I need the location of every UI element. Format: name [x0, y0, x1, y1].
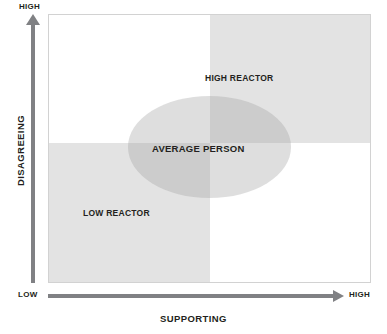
y-axis-line	[31, 24, 35, 283]
average-person-label: AVERAGE PERSON	[152, 143, 245, 154]
x-axis-low-label: LOW	[18, 290, 38, 299]
x-axis-line	[48, 294, 337, 298]
y-axis-title: DISAGREEING	[15, 101, 26, 201]
reactor-quadrant-diagram: HIGH REACTOR LOW REACTOR AVERAGE PERSON …	[0, 0, 387, 334]
y-axis-arrow-icon	[26, 14, 40, 25]
y-axis-high-label: HIGH	[19, 2, 40, 11]
quadrant-label-low-reactor: LOW REACTOR	[83, 208, 150, 218]
x-axis-arrow-icon	[333, 290, 344, 302]
x-axis-high-label: HIGH	[349, 290, 370, 299]
x-axis-title: SUPPORTING	[0, 313, 387, 324]
quadrant-label-high-reactor: HIGH REACTOR	[205, 73, 274, 83]
